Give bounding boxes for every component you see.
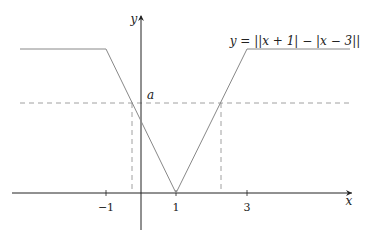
function-plot: −1 1 3 x y a y = ||x + 1| − |x − 3||	[0, 0, 373, 237]
x-axis-label: x	[346, 194, 353, 208]
a-label: a	[147, 88, 154, 102]
tick-label-minus-1: −1	[98, 201, 114, 214]
y-axis-label: y	[130, 12, 138, 26]
function-curve	[20, 49, 350, 193]
function-label: y = ||x + 1| − |x − 3||	[229, 34, 361, 48]
tick-label-1: 1	[173, 201, 180, 214]
tick-label-3: 3	[244, 201, 251, 214]
